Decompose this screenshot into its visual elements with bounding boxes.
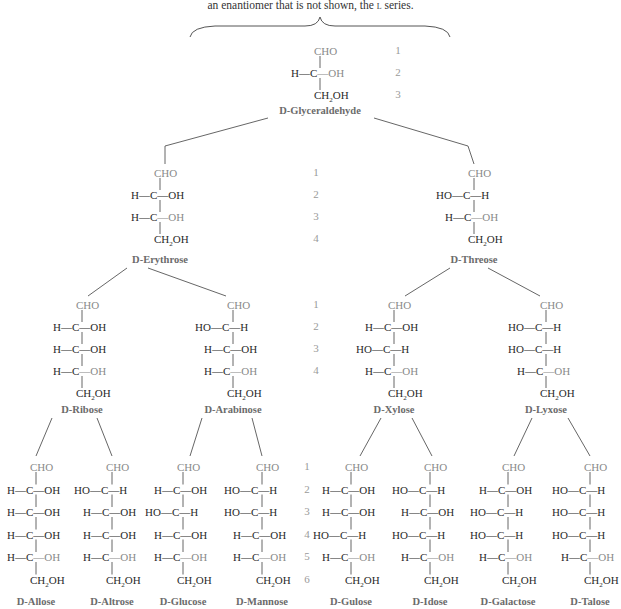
fischer-row: CH2OH <box>540 386 575 400</box>
right-substituent: —OH <box>180 529 207 541</box>
right-substituent: —H <box>347 529 366 541</box>
left-substituent: HO— <box>392 484 419 496</box>
fischer-row: CH2OH <box>314 88 349 102</box>
fischer-row: H—C—OH <box>7 528 60 542</box>
left-substituent: HO— <box>195 321 222 333</box>
right-substituent: —OH <box>33 529 60 541</box>
curly-brace <box>190 17 450 37</box>
right-substituent: —H <box>258 484 277 496</box>
left-substituent: HO— <box>356 343 383 355</box>
left-substituent: H— <box>7 529 26 541</box>
fischer-row: CH2OH <box>154 232 189 246</box>
fischer-row: H—C—OH <box>83 505 136 519</box>
hydroxymethyl-group: CH2OH <box>177 574 212 586</box>
fischer-row: CHO <box>424 460 447 474</box>
left-substituent: H— <box>322 506 341 518</box>
fischer-row: HO—C—H <box>224 483 277 497</box>
fischer-row: H—C—OH <box>154 528 207 542</box>
right-substituent: —H <box>586 529 605 541</box>
tree-line <box>468 146 474 164</box>
fischer-row: H—C—OH <box>401 505 454 519</box>
fischer-row: HO—C—H <box>195 320 248 334</box>
tree-line <box>374 118 468 146</box>
left-substituent: H— <box>479 551 498 563</box>
left-substituent: HO— <box>392 529 419 541</box>
right-substituent: —H <box>542 343 561 355</box>
fischer-row: H—C—OH <box>154 550 207 564</box>
fischer-row: CH2OH <box>106 573 141 587</box>
right-substituent: —OH <box>587 551 614 563</box>
right-substituent: —OH <box>391 365 418 377</box>
left-substituent: HO— <box>74 484 101 496</box>
left-substituent: H— <box>154 484 173 496</box>
tree-line <box>412 418 432 456</box>
right-substituent: —H <box>470 189 489 201</box>
right-substituent: —OH <box>259 529 286 541</box>
left-substituent: H— <box>291 67 310 79</box>
aldehyde-group: CHO <box>106 461 129 473</box>
carbon-number: 1 <box>313 298 319 310</box>
fischer-row: CHO <box>256 460 279 474</box>
right-substituent: —OH <box>348 484 375 496</box>
left-substituent: H— <box>83 529 102 541</box>
left-substituent: HO— <box>508 321 535 333</box>
fischer-row: H—C—OH <box>322 483 375 497</box>
left-substituent: H— <box>322 484 341 496</box>
right-substituent: —H <box>504 529 523 541</box>
aldehyde-group: CHO <box>468 167 491 179</box>
fischer-row: HO—C—H <box>552 505 605 519</box>
right-substituent: —H <box>542 321 561 333</box>
carbon-number: 3 <box>304 505 310 517</box>
left-substituent: H— <box>204 365 223 377</box>
fischer-row: CHO <box>106 460 129 474</box>
carbon-number: 3 <box>313 342 319 354</box>
fischer-row: H—C—OH <box>53 342 106 356</box>
left-substituent: H— <box>131 189 150 201</box>
aldehyde-group: CHO <box>502 461 525 473</box>
hydroxymethyl-group: CH2OH <box>30 574 65 586</box>
fischer-row: HO—C—H <box>74 483 127 497</box>
left-substituent: HO— <box>224 484 251 496</box>
fischer-row: HO—C—H <box>145 505 198 519</box>
carbon-number: 2 <box>313 320 319 332</box>
fischer-row: CH2OH <box>30 573 65 587</box>
right-substituent: —OH <box>33 506 60 518</box>
right-substituent: —OH <box>427 506 454 518</box>
left-substituent: H— <box>154 551 173 563</box>
fischer-row: H—C—OH <box>517 364 570 378</box>
fischer-row: H—C—OH <box>479 483 532 497</box>
right-substituent: —OH <box>230 343 257 355</box>
sugar-name-erythrose: D-Erythrose <box>132 254 188 265</box>
tree-line <box>36 418 52 456</box>
carbon-number: 3 <box>313 210 319 222</box>
left-substituent: H— <box>365 321 384 333</box>
carbon-number: 1 <box>304 460 310 472</box>
sugar-name-idose: D-Idose <box>412 596 447 607</box>
left-substituent: H— <box>7 551 26 563</box>
right-substituent: —H <box>586 506 605 518</box>
left-substituent: H— <box>445 211 464 223</box>
tree-line <box>165 118 268 146</box>
tree-line <box>97 418 112 456</box>
aldehyde-group: CHO <box>227 299 250 311</box>
fischer-row: H—C—OH <box>7 483 60 497</box>
fischer-row: HO—C—H <box>392 528 445 542</box>
fischer-row: HO—C—H <box>392 483 445 497</box>
left-substituent: H— <box>53 365 72 377</box>
fischer-row: H—C—OH <box>53 364 106 378</box>
right-substituent: —H <box>504 506 523 518</box>
left-substituent: H— <box>131 211 150 223</box>
left-substituent: HO— <box>552 506 579 518</box>
sugar-name-xylose: D-Xylose <box>374 404 415 415</box>
left-substituent: H— <box>154 529 173 541</box>
right-substituent: —H <box>258 506 277 518</box>
fischer-row: CH2OH <box>388 386 423 400</box>
hydroxymethyl-group: CH2OH <box>227 387 262 399</box>
tree-line <box>88 268 127 296</box>
sugar-name-mannose: D-Mannose <box>236 596 288 607</box>
fischer-row: H—C—OH <box>83 550 136 564</box>
aldehyde-group: CHO <box>30 461 53 473</box>
hydroxymethyl-group: CH2OH <box>388 387 423 399</box>
right-substituent: —H <box>108 484 127 496</box>
fischer-row: HO—C—H <box>470 528 523 542</box>
